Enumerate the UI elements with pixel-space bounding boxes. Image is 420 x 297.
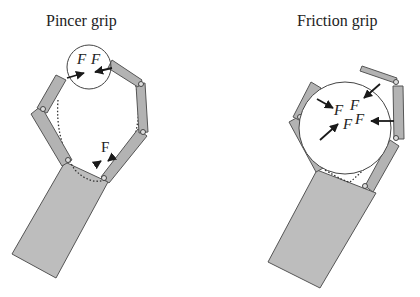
friction-gripper: F F F F [268, 66, 404, 288]
joint-icon [394, 80, 399, 85]
force-label: F [354, 111, 365, 127]
force-arrow-icon [108, 157, 113, 161]
joint-icon [394, 136, 399, 141]
force-label: F [76, 51, 87, 67]
pincer-object [67, 45, 111, 89]
joint-icon [41, 107, 46, 112]
joint-icon [141, 130, 146, 135]
force-label: F [90, 51, 101, 67]
friction-right-finger-middle [393, 86, 404, 139]
pincer-right-finger-tip [108, 60, 142, 87]
force-arrow-icon [95, 161, 101, 165]
joint-icon [66, 158, 71, 163]
gripper-diagram: F F F F F F [0, 0, 420, 297]
force-label: F [101, 139, 109, 155]
pincer-right-finger-proximal [101, 129, 147, 183]
joint-icon [139, 82, 144, 87]
joint-icon [363, 184, 368, 189]
joint-icon [102, 176, 107, 181]
pincer-gripper: F F F [12, 45, 148, 278]
friction-palm [268, 170, 376, 288]
force-arrow-icon [95, 68, 112, 72]
pincer-palm [12, 162, 108, 278]
pincer-right-finger-middle [136, 83, 148, 133]
force-label: F [342, 116, 353, 132]
friction-right-finger-tip [360, 66, 397, 83]
force-arrow-icon [67, 73, 84, 78]
pincer-left-finger-proximal [31, 106, 72, 166]
